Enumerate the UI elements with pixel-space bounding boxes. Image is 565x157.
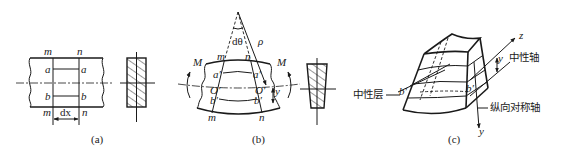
label-rho: ρ [257, 35, 263, 47]
label-a-prime-right: a′ [253, 68, 262, 80]
label-m-bottom: m [43, 106, 51, 118]
caption-a: (a) [91, 133, 104, 146]
label-a-prime-left: a′ [213, 68, 222, 80]
label-M-right: M [276, 56, 287, 68]
rectangular-cross-section [120, 52, 155, 122]
caption-c: (c) [448, 133, 461, 146]
label-b-prime-left: b′ [399, 85, 408, 97]
label-n-bottom: n [259, 111, 265, 123]
trapezoidal-cross-section [300, 58, 336, 125]
label-M-left: M [192, 56, 203, 68]
label-y-axis: y [478, 125, 484, 137]
label-dx: dx [60, 106, 72, 118]
label-b-prime-left: b′ [210, 94, 219, 106]
label-m-top: m [217, 50, 225, 62]
label-neutral-layer: 中性层 [353, 88, 383, 100]
label-neutral-axis: 中性轴 [509, 51, 539, 63]
label-m-bottom: m [208, 111, 216, 123]
label-b-right: b [81, 90, 87, 102]
3d-beam-element [386, 34, 515, 128]
label-b-prime-right: b′ [466, 82, 475, 94]
label-dtheta: dθ [232, 35, 243, 47]
label-y: y [274, 85, 280, 97]
label-n-bottom: n [82, 106, 88, 118]
panel-b: dθ ρ m n M M a′ a′ O′ O′ b′ b′ y m n (b) [178, 12, 336, 146]
bending-deformation-figure: m n a a b b m n dx (a) [0, 0, 565, 157]
label-longitudinal-symmetry-axis: 纵向对称轴 [490, 101, 540, 113]
label-n-top: n [245, 50, 251, 62]
label-n-top: n [77, 45, 83, 57]
label-b-left: b [45, 90, 51, 102]
label-b-prime-right: b′ [254, 94, 263, 106]
caption-b: (b) [252, 133, 265, 146]
label-z-axis: z [518, 29, 524, 41]
panel-a: m n a a b b m n dx (a) [16, 45, 155, 146]
label-a-right: a [81, 63, 87, 75]
label-a-left: a [45, 63, 51, 75]
label-y-distance: y [497, 52, 503, 64]
label-m-top: m [44, 45, 52, 57]
panel-c: z y y b′ b′ 中性轴 中性层 纵向对称轴 (c) [353, 29, 540, 146]
